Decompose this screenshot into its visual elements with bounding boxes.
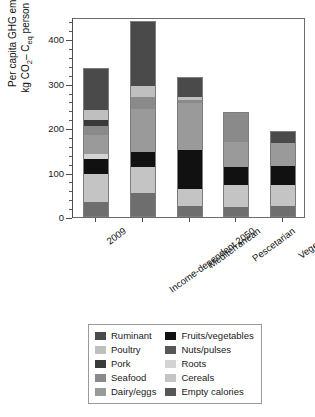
bar-segment[interactable] — [83, 110, 109, 120]
x-tick — [235, 218, 236, 222]
y-tick-minor — [69, 58, 73, 59]
y-tick-label: 400 — [48, 35, 64, 45]
y-tick-major — [66, 85, 72, 86]
bar-segment[interactable] — [83, 159, 109, 175]
legend-item-label: Poultry — [111, 344, 141, 356]
legend-item[interactable]: Dairy/eggs — [95, 386, 156, 398]
bar-segment[interactable] — [223, 167, 249, 185]
bar-segment[interactable] — [223, 207, 249, 217]
y-title-sub-2: 2 — [25, 60, 34, 64]
legend-item[interactable]: Empty calories — [165, 386, 253, 398]
legend-item[interactable]: Cereals — [165, 372, 253, 384]
y-tick-major — [66, 40, 72, 41]
y-tick-minor — [69, 156, 73, 157]
stacked-bar[interactable] — [177, 77, 203, 217]
y-axis-title-line1: Per capita GHG emissions — [6, 0, 19, 118]
bar-segment[interactable] — [270, 206, 296, 217]
legend-item[interactable]: Poultry — [95, 344, 156, 356]
bar-segment[interactable] — [83, 202, 109, 217]
bar-segment[interactable] — [177, 189, 203, 206]
legend-swatch-icon — [165, 374, 176, 382]
bar-segment[interactable] — [130, 86, 156, 97]
bar-segment[interactable] — [223, 185, 249, 207]
ghg-emissions-stacked-bar-figure: Per capita GHG emissions kg CO2– Ceq per… — [0, 0, 315, 417]
x-tick — [189, 218, 190, 222]
bar-segment[interactable] — [270, 166, 296, 185]
x-tick-label: Mediterranean — [206, 226, 261, 270]
bar-segment[interactable] — [177, 77, 203, 98]
legend-item-label: Empty calories — [181, 386, 243, 398]
legend-swatch-icon — [95, 360, 106, 368]
bar-segment[interactable] — [223, 112, 249, 143]
y-title-mid: – C — [20, 45, 31, 61]
y-tick-minor — [69, 147, 73, 148]
bar-segment[interactable] — [83, 68, 109, 110]
y-tick-label: 100 — [48, 169, 64, 179]
bar-segment[interactable] — [270, 185, 296, 206]
bar-segment[interactable] — [83, 135, 109, 155]
legend-column-right: Fruits/vegetablesNuts/pulsesRootsCereals… — [165, 330, 253, 398]
legend-item-label: Roots — [181, 358, 206, 370]
x-tick — [142, 218, 143, 222]
stacked-bar[interactable] — [130, 21, 156, 217]
y-tick-label: 0 — [59, 213, 64, 223]
bar-segment[interactable] — [130, 109, 156, 152]
legend-item-label: Ruminant — [111, 330, 152, 342]
y-tick-major — [66, 174, 72, 175]
y-tick-minor — [69, 31, 73, 32]
y-tick-label: 300 — [48, 80, 64, 90]
bar-segment[interactable] — [270, 143, 296, 166]
x-axis: 2009Income-dependent 2050MediterraneanPe… — [72, 218, 305, 219]
y-title-sub-eq: eq — [25, 36, 34, 44]
bar-segment[interactable] — [130, 193, 156, 217]
bar-segment[interactable] — [270, 131, 296, 143]
bar-segment[interactable] — [177, 150, 203, 189]
bar-segment[interactable] — [130, 167, 156, 192]
stacked-bar[interactable] — [83, 68, 109, 217]
legend-item[interactable]: Nuts/pulses — [165, 344, 253, 356]
legend-item[interactable]: Roots — [165, 358, 253, 370]
legend-column-left: RuminantPoultryPorkSeafoodDairy/eggs — [95, 330, 156, 398]
bar-segment[interactable] — [177, 103, 203, 150]
bar-segment[interactable] — [83, 126, 109, 134]
y-tick-minor — [69, 22, 73, 23]
legend-item[interactable]: Fruits/vegetables — [165, 330, 253, 342]
legend-swatch-icon — [95, 332, 106, 340]
y-axis-title: Per capita GHG emissions kg CO2– Ceq per… — [6, 0, 36, 118]
y-tick-minor — [69, 138, 73, 139]
legend-swatch-icon — [165, 388, 176, 396]
y-tick-minor — [69, 200, 73, 201]
legend-item[interactable]: Seafood — [95, 372, 156, 384]
x-tick-label: 2009 — [105, 226, 128, 247]
y-tick-minor — [69, 49, 73, 50]
legend-item[interactable]: Ruminant — [95, 330, 156, 342]
legend-item[interactable]: Pork — [95, 358, 156, 370]
y-tick-minor — [69, 67, 73, 68]
bar-segment[interactable] — [223, 142, 249, 167]
legend-item-label: Fruits/vegetables — [181, 330, 253, 342]
legend-swatch-icon — [165, 332, 176, 340]
bar-segment[interactable] — [83, 174, 109, 202]
x-tick — [95, 218, 96, 222]
legend-item-label: Nuts/pulses — [181, 344, 231, 356]
legend-item-label: Cereals — [181, 372, 214, 384]
stacked-bar[interactable] — [223, 112, 249, 217]
legend-swatch-icon — [95, 346, 106, 354]
bar-segment[interactable] — [130, 97, 156, 109]
bar-segment[interactable] — [130, 152, 156, 168]
y-tick-minor — [69, 120, 73, 121]
bar-segment[interactable] — [177, 206, 203, 217]
y-tick-minor — [69, 111, 73, 112]
y-tick-minor — [69, 94, 73, 95]
stacked-bar[interactable] — [270, 131, 296, 217]
y-tick-minor — [69, 76, 73, 77]
bars-layer — [73, 19, 304, 217]
legend-swatch-icon — [95, 374, 106, 382]
y-tick-major — [66, 129, 72, 130]
y-tick-minor — [69, 182, 73, 183]
legend: RuminantPoultryPorkSeafoodDairy/eggs Fru… — [88, 324, 262, 404]
bar-segment[interactable] — [130, 21, 156, 86]
y-title-kgco: kg CO — [20, 64, 31, 92]
y-tick-minor — [69, 102, 73, 103]
legend-swatch-icon — [165, 360, 176, 368]
